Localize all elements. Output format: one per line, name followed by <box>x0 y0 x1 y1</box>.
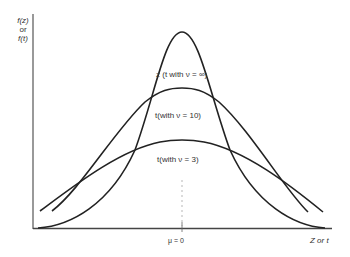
t10-curve <box>52 88 308 212</box>
chart-plot <box>0 0 350 257</box>
y-label-fz: f(z) <box>13 16 33 25</box>
x-axis-label: Z or t <box>310 236 329 245</box>
z-curve <box>38 32 325 228</box>
y-label-or: or <box>13 25 33 34</box>
t3-curve <box>40 140 323 212</box>
z-curve-label: z (t with ν = ∞) <box>156 70 207 79</box>
t3-curve-label: t(with ν = 3) <box>157 155 199 164</box>
y-label-ft: f(t) <box>13 34 33 43</box>
t10-curve-label: t(with ν = 10) <box>155 111 201 120</box>
mu-label: μ = 0 <box>168 237 184 244</box>
y-axis-label: f(z) or f(t) <box>13 16 33 43</box>
